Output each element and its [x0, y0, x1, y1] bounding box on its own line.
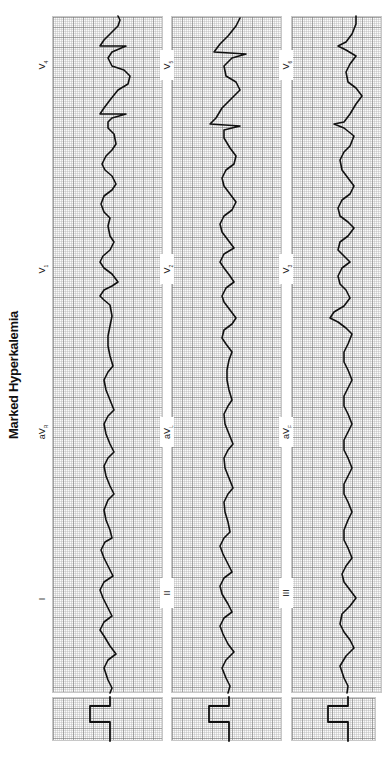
- ecg-strip-row-3: [291, 16, 382, 693]
- lead-label-III: III: [279, 578, 293, 608]
- lead-label-II: II: [160, 578, 174, 608]
- lead-label-V5: V5: [160, 50, 174, 80]
- ecg-strip-row-1: [52, 16, 163, 693]
- lead-label-V4: V4: [35, 50, 49, 80]
- calibration-box-row-1: [52, 697, 163, 741]
- lead-label-V2: V2: [160, 254, 174, 284]
- lead-label-V6: V6: [279, 50, 293, 80]
- ecg-title: Marked Hyperkalemia: [6, 275, 26, 475]
- calibration-box-row-2: [171, 697, 282, 741]
- lead-label-aVF: aVF: [279, 417, 293, 447]
- ecg-strip-row-2: [171, 16, 282, 693]
- lead-label-I: I: [35, 584, 49, 614]
- lead-label-V1: V1: [35, 254, 49, 284]
- lead-label-V3: V3: [279, 254, 293, 284]
- calibration-box-row-3: [291, 697, 376, 741]
- lead-label-aVR: aVR: [35, 417, 49, 447]
- lead-label-aVL: aVL: [160, 417, 174, 447]
